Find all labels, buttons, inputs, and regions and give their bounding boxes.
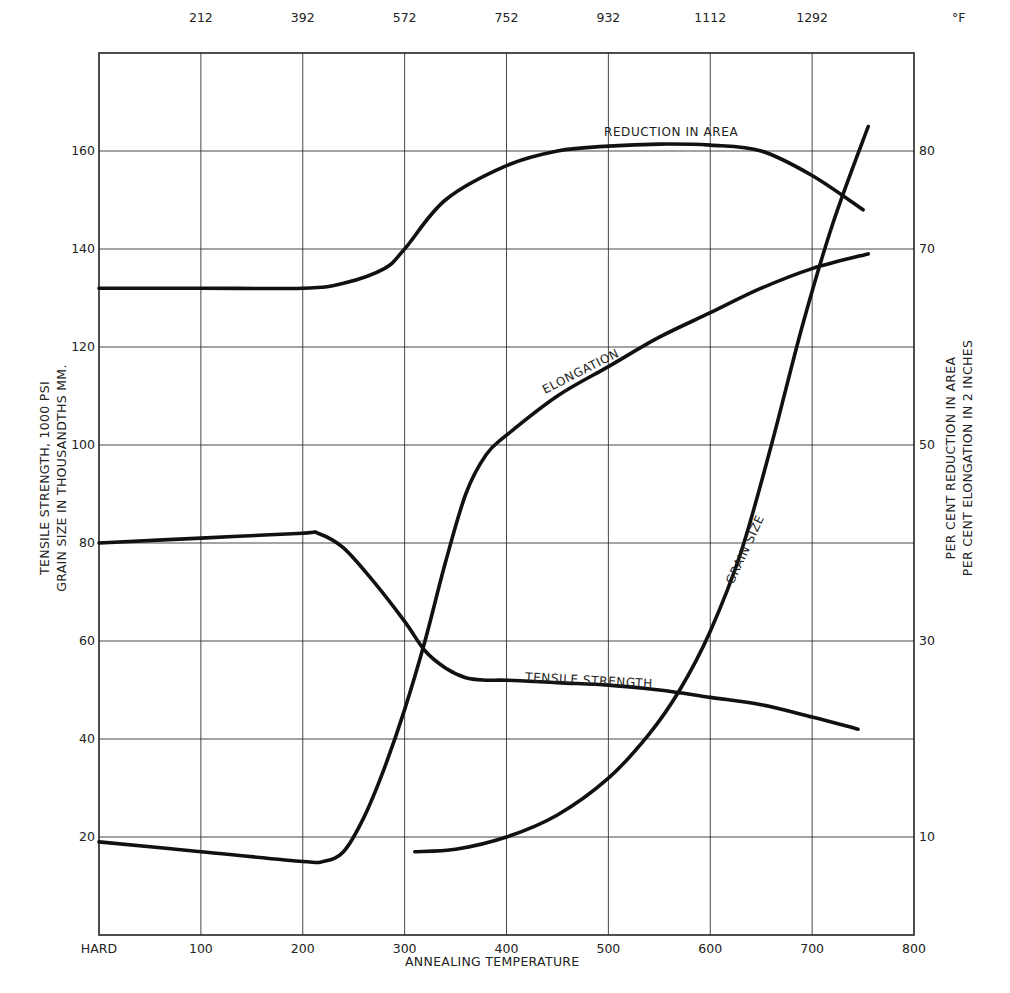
y-axis-left-title-2: GRAIN SIZE IN THOUSANDTHS MM. bbox=[54, 364, 69, 591]
x-tick-label-top: 212 bbox=[189, 10, 213, 25]
chart-canvas: HARD100200300400500600700800212392572752… bbox=[0, 0, 1010, 993]
y-tick-label-right: 10 bbox=[919, 829, 935, 844]
curve-label-reduction-in-area: REDUCTION IN AREA bbox=[604, 125, 738, 139]
curve-grain-size bbox=[415, 127, 868, 852]
data-curves bbox=[99, 127, 868, 863]
x-tick-label-bottom: 200 bbox=[291, 941, 315, 956]
x-tick-label-bottom: HARD bbox=[81, 941, 117, 956]
y-tick-label-left: 20 bbox=[79, 829, 95, 844]
x-tick-label-top: 1112 bbox=[694, 10, 726, 25]
x-axis-title: ANNEALING TEMPERATURE bbox=[405, 954, 580, 969]
y-tick-label-right: 70 bbox=[919, 241, 935, 256]
y-tick-label-right: 30 bbox=[919, 633, 935, 648]
top-axis-unit: °F bbox=[952, 10, 965, 25]
y-axis-left-title-1: TENSILE STRENGTH, 1000 PSI bbox=[37, 381, 52, 576]
y-tick-label-left: 40 bbox=[79, 731, 95, 746]
y-tick-label-right: 80 bbox=[919, 143, 935, 158]
y-tick-label-left: 160 bbox=[71, 143, 95, 158]
x-tick-label-top: 752 bbox=[495, 10, 519, 25]
x-tick-label-bottom: 700 bbox=[800, 941, 824, 956]
curve-label-tensile-strength: TENSILE STRENGTH bbox=[524, 670, 653, 691]
x-tick-label-bottom: 800 bbox=[902, 941, 926, 956]
x-tick-label-top: 1292 bbox=[796, 10, 828, 25]
y-tick-label-left: 120 bbox=[71, 339, 95, 354]
curve-label-grain-size: GRAIN SIZE bbox=[723, 513, 767, 587]
x-tick-label-bottom: 600 bbox=[698, 941, 722, 956]
y-tick-label-left: 140 bbox=[71, 241, 95, 256]
y-tick-label-left: 80 bbox=[79, 535, 95, 550]
y-axis-right-title-1: PER CENT REDUCTION IN AREA bbox=[943, 356, 958, 559]
x-tick-label-top: 392 bbox=[291, 10, 315, 25]
y-axis-right-title-2: PER CENT ELONGATION IN 2 INCHES bbox=[960, 340, 975, 576]
curve-label-elongation: ELONGATION bbox=[540, 346, 621, 397]
grid-lines bbox=[99, 53, 914, 935]
x-tick-label-bottom: 100 bbox=[189, 941, 213, 956]
y-tick-label-left: 100 bbox=[71, 437, 95, 452]
curve-elongation bbox=[99, 254, 868, 863]
y-tick-label-right: 50 bbox=[919, 437, 935, 452]
x-tick-label-top: 932 bbox=[596, 10, 620, 25]
curve-reduction-in-area bbox=[99, 144, 863, 288]
y-tick-label-left: 60 bbox=[79, 633, 95, 648]
x-tick-label-bottom: 500 bbox=[596, 941, 620, 956]
x-tick-label-top: 572 bbox=[393, 10, 417, 25]
